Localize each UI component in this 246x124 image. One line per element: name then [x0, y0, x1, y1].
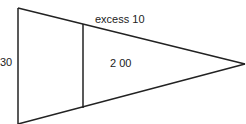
left-side-label: 30 — [0, 57, 12, 68]
top-edge-label: excess 10 — [95, 14, 145, 25]
inner-area-label: 2 00 — [110, 58, 131, 69]
bottom-edge-line — [18, 64, 245, 124]
